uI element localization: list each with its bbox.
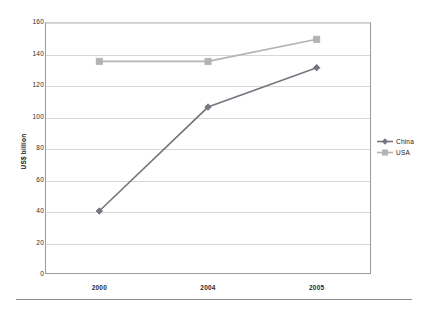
- legend-item-usa[interactable]: USA: [377, 147, 414, 158]
- y-axis-tick-label: 40: [14, 208, 44, 215]
- data-point-marker: [205, 58, 211, 64]
- series-layer: [45, 22, 371, 274]
- y-axis-title: US$ billion: [20, 117, 27, 187]
- legend-item-china[interactable]: China: [377, 136, 414, 147]
- line-chart-figure: 020406080100120140160 US$ billion 200020…: [0, 0, 426, 309]
- x-axis-tick-label: 2000: [69, 284, 129, 291]
- series-line: [99, 68, 316, 211]
- legend-swatch-icon: [377, 148, 393, 157]
- legend-swatch-icon: [377, 137, 393, 146]
- data-point-marker: [313, 64, 319, 70]
- legend: ChinaUSA: [377, 136, 414, 158]
- legend-label: USA: [396, 149, 410, 156]
- legend-label: China: [396, 138, 414, 145]
- y-axis-tick-label: 100: [14, 113, 44, 120]
- series-usa: [96, 36, 319, 64]
- y-axis-tick-label: 120: [14, 82, 44, 89]
- y-axis-tick-label: 0: [14, 271, 44, 278]
- x-axis-tick-label: 2005: [287, 284, 347, 291]
- y-axis-tick-label: 80: [14, 145, 44, 152]
- bottom-rule: [16, 299, 412, 300]
- y-axis-tick-label: 160: [14, 19, 44, 26]
- data-point-marker: [314, 36, 320, 42]
- x-axis-tick-label: 2004: [178, 284, 238, 291]
- series-china: [96, 64, 320, 214]
- data-point-marker: [96, 58, 102, 64]
- y-axis-tick-label: 20: [14, 239, 44, 246]
- y-axis-tick-label: 140: [14, 50, 44, 57]
- y-axis-tick-label: 60: [14, 176, 44, 183]
